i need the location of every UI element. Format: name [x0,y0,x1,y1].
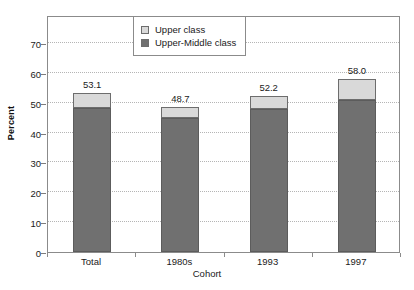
bar-value-label: 48.7 [171,93,190,104]
y-axis-tick-label: 20 [7,188,41,199]
legend-item[interactable]: Upper-Middle class [141,37,236,48]
bar-value-label: 53.1 [83,79,102,90]
x-axis-tick-mark [312,253,313,257]
bar-segment-upper-middle-class[interactable] [161,118,199,252]
bar-value-label: 52.2 [259,82,278,93]
x-axis-title: Cohort [0,268,414,279]
legend-swatch-icon [141,26,149,34]
bar-segment-upper-middle-class[interactable] [250,109,288,252]
stacked-bar-chart: Percent 53.148.752.258.0 010203040506070… [0,0,414,290]
x-axis-tick-mark [224,253,225,257]
x-axis-tick-mark [135,253,136,257]
bar-segment-upper-class[interactable] [250,96,288,109]
y-axis-tick-mark [41,104,46,105]
bar-segment-upper-middle-class[interactable] [73,108,111,252]
x-axis-tick-label: Total [81,256,101,267]
y-axis-tick-mark [41,253,46,254]
bar-group[interactable]: 58.0 [338,15,376,252]
y-axis-tick-label: 0 [7,248,41,259]
y-axis-tick-mark [41,163,46,164]
bar-group[interactable]: 53.1 [73,15,111,252]
y-axis-tick-mark [41,44,46,45]
y-axis-tick-label: 30 [7,158,41,169]
legend-item-label: Upper-Middle class [155,37,236,48]
y-axis-tick-mark [41,223,46,224]
y-axis-tick-mark [41,193,46,194]
y-axis-tick-label: 60 [7,68,41,79]
x-axis-tick-mark [47,253,48,257]
x-axis-tick-mark [400,253,401,257]
legend-swatch-icon [141,39,149,47]
bar-segment-upper-class[interactable] [73,93,111,108]
bar-segment-upper-class[interactable] [161,107,199,118]
y-axis-tick-label: 40 [7,128,41,139]
bar-group[interactable]: 52.2 [250,15,288,252]
x-axis-tick-label: 1997 [345,256,366,267]
legend-item[interactable]: Upper class [141,24,236,35]
legend-item-label: Upper class [155,24,205,35]
y-axis-tick-label: 10 [7,218,41,229]
bar-segment-upper-class[interactable] [338,79,376,100]
x-axis-tick-label: 1993 [257,256,278,267]
y-axis-tick-mark [41,134,46,135]
y-axis-tick-mark [41,74,46,75]
bar-value-label: 58.0 [348,65,367,76]
chart-legend: Upper classUpper-Middle class [133,16,246,56]
y-axis-tick-label: 70 [7,39,41,50]
x-axis-tick-label: 1980s [166,256,192,267]
y-axis-tick-label: 50 [7,98,41,109]
bar-segment-upper-middle-class[interactable] [338,100,376,252]
